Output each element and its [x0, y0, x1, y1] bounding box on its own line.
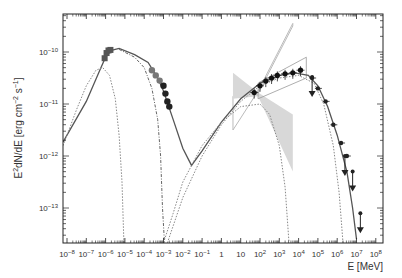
model-curve-4: [167, 75, 343, 242]
x-tick-label: 103: [273, 249, 286, 259]
series-group: [63, 23, 364, 242]
x-tick-label: 1: [219, 250, 224, 259]
sed-chart: 10−810−710−610−510−410−310−210−111010210…: [0, 0, 402, 278]
x-tick-label: 107: [350, 249, 363, 259]
tev-point: [323, 99, 327, 103]
gamma-point: [269, 75, 274, 80]
upper-limit-point: [310, 75, 314, 79]
plot-area: [63, 23, 364, 242]
gamma-point: [298, 68, 303, 73]
upper-limit-point: [343, 154, 347, 158]
upper-limit-arrow-icon: [309, 91, 316, 97]
x-tick-label: 10−4: [136, 249, 152, 259]
upper-limit-point: [351, 170, 355, 174]
x-tick-label: 104: [292, 249, 305, 259]
axes: 10−810−710−610−510−410−310−210−111010210…: [39, 14, 383, 259]
gamma-point: [263, 79, 268, 84]
x-axis-title: E [MeV]: [347, 261, 383, 272]
y-tick-label: 10−13: [39, 203, 59, 213]
model-curve-3: [164, 104, 290, 243]
xray-point: [149, 67, 155, 73]
x-tick-label: 10−8: [59, 249, 75, 259]
x-tick-label: 105: [312, 249, 325, 259]
x-tick-label: 10−6: [98, 249, 114, 259]
gamma-point: [252, 90, 257, 95]
gamma-point: [290, 70, 295, 75]
xray-point: [153, 72, 159, 78]
x-tick-label: 102: [254, 249, 267, 259]
x-tick-label: 10−2: [175, 249, 191, 259]
y-axis-title: E2dN/dE [erg cm−2 s−1]: [12, 77, 24, 178]
xray-point: [166, 103, 172, 109]
x-tick-label: 10−1: [194, 249, 210, 259]
xray-point: [162, 90, 168, 96]
tev-point: [316, 86, 320, 90]
upper-limit-arrow-icon: [357, 227, 364, 233]
x-tick-label: 10: [236, 250, 245, 259]
gamma-point: [275, 73, 280, 78]
y-tick-label: 10−12: [39, 151, 59, 161]
x-tick-label: 106: [331, 249, 344, 259]
y-tick-label: 10−10: [39, 47, 59, 57]
upper-limit-point: [358, 211, 362, 215]
x-tick-label: 10−7: [78, 249, 94, 259]
tev-point: [331, 123, 335, 127]
x-tick-label: 10−5: [117, 249, 133, 259]
xray-point: [156, 77, 162, 83]
gamma-point: [257, 83, 262, 88]
optical-point: [102, 55, 108, 61]
xray-point: [160, 83, 166, 89]
x-tick-label: 108: [370, 249, 383, 259]
tev-point: [339, 141, 343, 145]
model-curve-1: [63, 68, 124, 243]
gamma-point: [282, 71, 287, 76]
y-tick-label: 10−11: [39, 99, 58, 109]
optical-point: [107, 47, 113, 53]
x-tick-label: 10−3: [156, 249, 172, 259]
